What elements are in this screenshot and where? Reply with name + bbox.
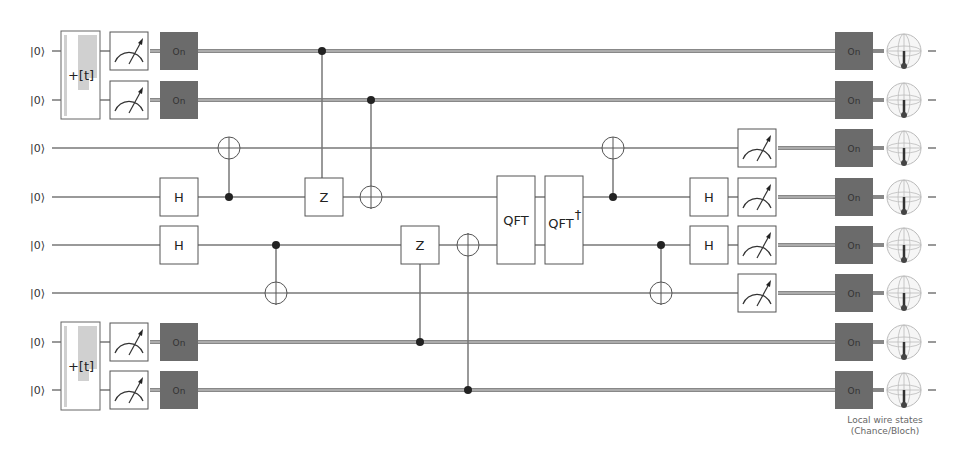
svg-text:On: On: [848, 386, 861, 396]
time-gate-bottom-label: +[t]: [68, 359, 94, 374]
svg-text:On: On: [848, 47, 861, 57]
on-display-left-7: On: [160, 371, 198, 409]
cnot-target-w2-a[interactable]: [218, 137, 240, 159]
hadamard-gate-4a[interactable]: H: [160, 226, 198, 264]
on-display-right-2: On: [835, 129, 873, 167]
cnot-target-w4[interactable]: [457, 234, 479, 256]
on-display-left-0: On: [160, 32, 198, 70]
on-display-right-7: On: [835, 371, 873, 409]
bloch-sphere-icon-7: [887, 373, 921, 408]
time-gate-top-label: +[t]: [68, 68, 94, 83]
on-display-right-3: On: [835, 178, 873, 216]
bloch-sphere-icon-6: [887, 325, 921, 360]
svg-text:H: H: [704, 238, 714, 253]
wire-label-1: |0⟩: [30, 94, 45, 107]
on-display-left-1: On: [160, 81, 198, 119]
caption-line-1: Local wire states: [820, 415, 950, 426]
on-display-right-5: On: [835, 274, 873, 312]
caption-line-2: (Chance/Bloch): [820, 426, 950, 437]
control-dot[interactable]: [464, 386, 472, 394]
svg-text:On: On: [848, 96, 861, 106]
wire-label-3: |0⟩: [30, 191, 45, 204]
measure-gate-final-3[interactable]: [738, 178, 776, 216]
svg-text:QFT: QFT: [548, 216, 573, 231]
svg-text:On: On: [173, 386, 186, 396]
bloch-sphere-icon-1: [887, 83, 921, 118]
time-gate-bottom[interactable]: +[t]: [61, 322, 100, 410]
quantum-circuit: |0⟩ |0⟩ |0⟩ |0⟩ |0⟩ |0⟩ |0⟩ |0⟩: [0, 0, 961, 462]
svg-text:On: On: [173, 338, 186, 348]
svg-text:On: On: [848, 144, 861, 154]
measure-gate-final-4[interactable]: [738, 226, 776, 264]
measure-gate-0[interactable]: [110, 32, 148, 70]
svg-text:†: †: [575, 207, 582, 222]
svg-text:On: On: [173, 96, 186, 106]
on-display-right-6: On: [835, 323, 873, 361]
control-dot[interactable]: [272, 241, 280, 249]
hadamard-gate-3a[interactable]: H: [160, 178, 198, 216]
measure-gate-7[interactable]: [110, 371, 148, 409]
measure-gate-final-2[interactable]: [738, 129, 776, 167]
wire-label-2: |0⟩: [30, 142, 45, 155]
control-dot[interactable]: [367, 96, 375, 104]
bloch-spheres: [887, 34, 921, 408]
on-display-right-0: On: [835, 32, 873, 70]
bloch-sphere-icon-2: [887, 131, 921, 166]
hadamard-gate-3b[interactable]: H: [690, 178, 728, 216]
svg-text:Z: Z: [320, 190, 329, 205]
svg-text:On: On: [848, 241, 861, 251]
on-display-right-4: On: [835, 226, 873, 264]
hadamard-gate-4b[interactable]: H: [690, 226, 728, 264]
wire-label-0: |0⟩: [30, 45, 45, 58]
wire-label-6: |0⟩: [30, 336, 45, 349]
time-gate-top[interactable]: +[t]: [61, 31, 100, 119]
local-wire-states-caption: Local wire states (Chance/Bloch): [820, 415, 950, 437]
measure-gate-1[interactable]: [110, 81, 148, 119]
wire-label-5: |0⟩: [30, 287, 45, 300]
svg-text:H: H: [174, 190, 184, 205]
svg-text:On: On: [173, 47, 186, 57]
svg-text:On: On: [848, 193, 861, 203]
cnot-target-w5-b[interactable]: [650, 282, 672, 304]
cnot-target-w5-a[interactable]: [265, 282, 287, 304]
wire-label-4: |0⟩: [30, 239, 45, 252]
measure-gate-6[interactable]: [110, 323, 148, 361]
cnot-targets: [218, 137, 672, 304]
qft-gate[interactable]: QFT: [497, 176, 535, 264]
wire-labels: |0⟩ |0⟩ |0⟩ |0⟩ |0⟩ |0⟩ |0⟩ |0⟩: [30, 45, 45, 397]
z-gate-4[interactable]: Z: [401, 226, 439, 264]
svg-text:Z: Z: [416, 238, 425, 253]
z-gate-3[interactable]: Z: [305, 178, 343, 216]
on-display-left-6: On: [160, 323, 198, 361]
control-dot[interactable]: [225, 193, 233, 201]
svg-text:On: On: [848, 338, 861, 348]
measure-gate-final-5[interactable]: [738, 274, 776, 312]
on-display-right: On On On On On On On On: [835, 32, 873, 409]
control-dot[interactable]: [609, 193, 617, 201]
cnot-target-w3[interactable]: [360, 186, 382, 208]
wire-label-7: |0⟩: [30, 384, 45, 397]
control-dot[interactable]: [416, 338, 424, 346]
bloch-sphere-icon-4: [887, 228, 921, 263]
control-dot[interactable]: [318, 47, 326, 55]
svg-text:H: H: [174, 238, 184, 253]
bloch-sphere-icon-5: [887, 276, 921, 311]
cnot-target-w2-b[interactable]: [602, 137, 624, 159]
svg-text:QFT: QFT: [503, 213, 528, 228]
bloch-sphere-icon-0: [887, 34, 921, 69]
qft-dagger-gate[interactable]: QFT †: [545, 176, 583, 264]
svg-text:On: On: [848, 289, 861, 299]
on-display-right-1: On: [835, 81, 873, 119]
control-dot[interactable]: [657, 241, 665, 249]
bloch-sphere-icon-3: [887, 180, 921, 215]
svg-text:H: H: [704, 190, 714, 205]
